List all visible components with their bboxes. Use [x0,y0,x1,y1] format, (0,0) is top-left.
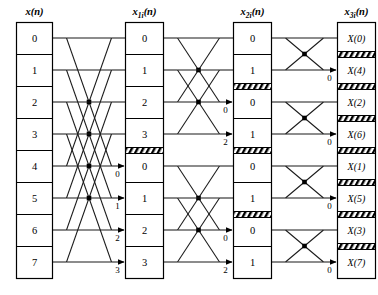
col-stage2-hatch-sep-4 [234,148,272,154]
col-stage2-hatch-sep-2 [234,84,272,90]
stage-3-twiddle-label-0: 0 [327,73,332,83]
col-stage1-cell-3: 3 [142,129,147,140]
col-stage1-header: x1i(n) [132,6,157,20]
stage-2-twiddle-label-0: 0 [223,105,228,115]
stage-2-twiddle-label-3: 2 [223,265,228,275]
col-output [338,23,376,279]
wiring-stage-1 [53,38,126,262]
stage-1-twiddle-label-1: 1 [115,201,120,211]
col-stage2-cell-3: 1 [250,129,255,140]
col-stage2 [234,23,272,279]
col-output-cell-2: X(2) [347,97,366,109]
stage-2-twiddle-label-1: 2 [223,137,228,147]
fft-flowgraph-diagram: 01234567x(n)01230123x1i(n)01010101x2i(n)… [0,0,378,295]
col-stage2-cell-4: 0 [250,161,255,172]
col-input-cell-0: 0 [32,33,37,44]
col-stage1-cell-0: 0 [142,33,147,44]
col-stage2-header: x2i(n) [240,6,265,20]
col-stage1 [126,23,164,279]
col-output-hatch-sep-1 [338,52,376,58]
col-stage1-cell-6: 2 [142,225,147,236]
col-stage2-cell-2: 0 [250,97,255,108]
col-output-cell-5: X(5) [347,193,366,205]
stage-3-twiddle-label-2: 0 [327,201,332,211]
stage-2-butterfly-node-1 [196,100,201,105]
col-input-cell-1: 1 [32,65,37,76]
col-input-header: x(n) [24,6,43,18]
col-input [17,23,53,279]
col-output-cell-4: X(1) [347,161,366,173]
col-output-hatch-sep-7 [338,244,376,250]
col-stage2-cell-1: 1 [250,65,255,76]
stage-1-butterfly-node-3 [87,196,92,201]
col-input-cell-7: 7 [32,257,37,268]
col-input-cell-5: 5 [32,193,37,204]
col-output-cell-6: X(3) [347,225,366,237]
col-stage2-cell-7: 1 [250,257,255,268]
col-output-cell-7: X(7) [347,257,366,269]
stage-1-twiddle-label-2: 2 [115,233,120,243]
col-stage2-cell-0: 0 [250,33,255,44]
stage-3-butterfly-node-1 [302,116,307,121]
stage-2-butterfly-node-3 [196,228,201,233]
col-input-cell-2: 2 [32,97,37,108]
column-box-layer [17,23,376,279]
col-output-cell-0: X(0) [347,33,366,45]
flowgraph-canvas: 01234567x(n)01230123x1i(n)01010101x2i(n)… [0,0,378,295]
stage-1-twiddle-label-3: 3 [115,265,120,275]
stage-3-butterfly-node-3 [302,244,307,249]
stage-3-butterfly-node-0 [302,52,307,57]
col-input-cell-3: 3 [32,129,37,140]
stage-1-twiddle-label-0: 0 [115,169,120,179]
col-stage1-cell-4: 0 [142,161,147,172]
col-stage1-hatch-sep-4 [126,148,164,154]
col-output-hatch-sep-3 [338,116,376,122]
col-output-hatch-sep-6 [338,212,376,218]
col-stage1-cell-1: 1 [142,65,147,76]
stage-3-twiddle-label-1: 0 [327,137,332,147]
col-output-cell-3: X(6) [347,129,366,141]
wire-layer [53,38,338,262]
wiring-stage-2 [164,38,234,262]
wiring-stage-3 [272,38,338,262]
col-output-hatch-sep-2 [338,84,376,90]
col-input-cell-4: 4 [32,161,38,172]
stage-1-butterfly-node-2 [87,164,92,169]
col-stage1-cell-7: 3 [142,257,147,268]
col-stage1-cell-2: 2 [142,97,147,108]
stage-2-twiddle-label-2: 0 [223,233,228,243]
col-output-header: x3i(n) [344,6,369,20]
col-stage2-cell-6: 0 [250,225,255,236]
col-input-cell-6: 6 [32,225,37,236]
col-stage2-hatch-sep-6 [234,212,272,218]
col-stage1-cell-5: 1 [142,193,147,204]
stage-3-butterfly-node-2 [302,180,307,185]
col-output-hatch-sep-5 [338,180,376,186]
col-stage2-cell-5: 1 [250,193,255,204]
stage-3-twiddle-label-3: 0 [327,265,332,275]
col-output-hatch-sep-4 [338,148,376,154]
col-output-cell-1: X(4) [347,65,366,77]
